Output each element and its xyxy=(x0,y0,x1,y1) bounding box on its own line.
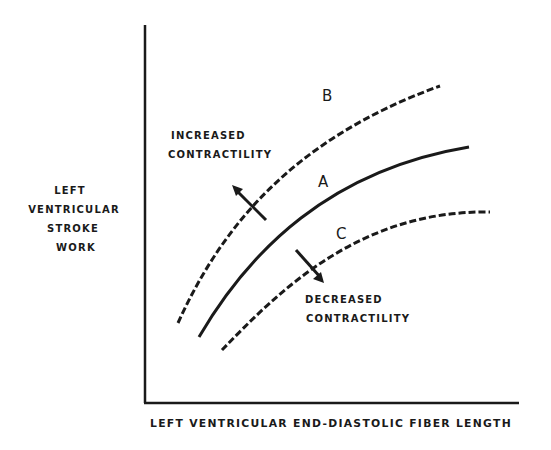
curve-a xyxy=(199,147,469,337)
decreased-label-1: DECREASED xyxy=(305,294,383,305)
curve-b-label: B xyxy=(322,87,332,105)
y-axis-label-2: VENTRICULAR xyxy=(28,204,120,215)
increased-label-2: CONTRACTILITY xyxy=(168,149,272,160)
y-axis-label-1: LEFT xyxy=(54,185,86,196)
curve-a-label: A xyxy=(318,173,329,191)
y-axis-label-3: STROKE xyxy=(47,223,99,234)
decreased-label-2: CONTRACTILITY xyxy=(306,313,410,324)
y-axis-label-4: WORK xyxy=(56,242,96,253)
increased-label-1: INCREASED xyxy=(171,130,246,141)
frank-starling-diagram: B A C INCREASED CONTRACTILITY DECREASED … xyxy=(0,0,551,450)
decreased-arrow-line xyxy=(296,250,321,278)
curve-c xyxy=(222,212,490,350)
curve-c-label: C xyxy=(336,225,346,243)
curve-b xyxy=(178,86,440,323)
increased-arrow-line xyxy=(236,190,266,220)
x-axis-label: LEFT VENTRICULAR END-DIASTOLIC FIBER LEN… xyxy=(150,418,512,429)
